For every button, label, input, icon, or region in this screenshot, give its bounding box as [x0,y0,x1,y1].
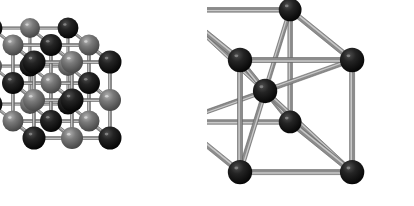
atom-specular-highlight [67,57,71,60]
corner-atom [340,48,364,72]
atom-specular-highlight [84,78,88,81]
atom-specular-highlight [8,78,12,81]
bond [350,60,355,172]
rock-salt-panel [0,0,207,206]
bcc-panel [207,0,414,206]
atom-specular-highlight [67,95,71,98]
atom-specular-highlight [84,40,87,43]
gray-atom [79,35,100,56]
bond [240,58,352,63]
atom-specular-highlight [67,133,71,136]
bcc-svg [207,0,414,206]
bond [240,170,352,175]
gray-atom [79,111,100,132]
atom-specular-highlight [285,5,289,8]
gray-atom [61,127,83,149]
atom-specular-highlight [346,54,350,57]
dark-atom [99,127,122,150]
body-centre-atom [253,79,277,103]
corner-atom [340,160,364,184]
bond [238,60,243,172]
dark-atom [61,89,84,112]
gray-atom [99,89,121,111]
atom-specular-highlight [84,116,87,119]
crystal-structure-figure: Crystal lattice unit cells Rock salt (Na… [0,0,414,206]
corner-atom [228,160,252,184]
atom-specular-highlight [63,23,66,26]
gray-atom [41,73,62,94]
gray-atom [3,35,24,56]
atom-specular-highlight [8,40,11,43]
dark-atom [40,34,62,56]
atom-specular-highlight [234,54,238,57]
atom-specular-highlight [8,116,11,119]
gray-atom [61,51,83,73]
atom-specular-highlight [346,166,350,169]
atom-specular-highlight [46,78,49,81]
rock-salt-svg [0,0,207,206]
atom-specular-highlight [25,23,28,25]
dark-atom [23,127,46,150]
dark-atom [23,51,46,74]
bond [288,10,293,122]
atom-specular-highlight [105,57,109,60]
dark-atom [78,72,100,94]
atom-specular-highlight [29,95,33,98]
corner-atom [279,111,302,134]
atom-specular-highlight [105,95,109,98]
dark-atom [99,51,122,74]
atom-specular-highlight [259,85,263,88]
corner-atom [228,48,252,72]
gray-atom [3,111,24,132]
atom-specular-highlight [29,57,33,60]
atom-specular-highlight [234,166,238,169]
bond [207,8,290,13]
atom-specular-highlight [29,133,33,136]
atom-specular-highlight [46,116,50,119]
dark-atom [40,110,62,132]
atom-specular-highlight [46,40,50,43]
atom-specular-highlight [105,133,109,136]
atom-specular-highlight [285,117,289,120]
gray-atom [20,18,40,38]
dark-atom [2,72,24,94]
dark-atom [58,18,79,39]
bond [207,120,290,125]
gray-atom [23,89,45,111]
